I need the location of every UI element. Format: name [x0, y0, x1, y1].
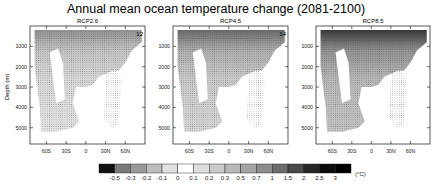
- panel-title: RCP2.6: [77, 18, 99, 24]
- colorbar-label: 0.5: [237, 175, 246, 181]
- y-tick-label: 3000: [15, 84, 27, 90]
- y-tick-label: 1000: [301, 43, 313, 49]
- x-tick-label: 0: [84, 148, 87, 154]
- x-tick-label: 0: [370, 148, 373, 154]
- panels: RCP2.61260S30S030N60N1000200030004000500…: [15, 18, 430, 154]
- colorbar-label: 0.2: [205, 175, 214, 181]
- colorbar-swatch: [131, 164, 147, 173]
- colorbar-label: 0.7: [252, 175, 261, 181]
- colorbar-swatch: [225, 164, 241, 173]
- colorbar-swatch: [320, 164, 336, 173]
- x-tick-label: 0: [227, 148, 230, 154]
- colorbar-label: 3: [334, 175, 338, 181]
- y-tick-label: 2000: [301, 64, 313, 70]
- y-tick-label: 5000: [301, 125, 313, 131]
- colorbar-label: -0.2: [141, 175, 152, 181]
- panel-field: [173, 26, 288, 144]
- colorbar-swatch: [209, 164, 225, 173]
- colorbar-label: 1: [271, 175, 275, 181]
- colorbar-label: 1.5: [284, 175, 293, 181]
- x-tick-label: 60S: [185, 148, 195, 154]
- colorbar-label: -0.5: [110, 175, 121, 181]
- y-tick-label: 2000: [15, 64, 27, 70]
- x-tick-label: 30N: [101, 148, 111, 154]
- y-axis-label: Depth (m): [4, 74, 10, 101]
- y-tick-label: 4000: [301, 104, 313, 110]
- x-tick-label: 60N: [264, 148, 274, 154]
- colorbar-swatch: [288, 164, 304, 173]
- y-tick-label: 1000: [15, 43, 27, 49]
- colorbar-label: -0.3: [125, 175, 136, 181]
- colorbar-swatch: [178, 164, 194, 173]
- colorbar-swatch: [257, 164, 273, 173]
- panel-rcp85: RCP8.560S30S030N60N10002000300040005000: [301, 18, 430, 154]
- x-tick-label: 30N: [386, 148, 396, 154]
- colorbar-swatch: [335, 164, 351, 173]
- x-tick-label: 60N: [406, 148, 416, 154]
- model-count-label: 12: [136, 31, 143, 37]
- x-tick-label: 30S: [205, 148, 215, 154]
- model-count-label: 14: [279, 31, 286, 37]
- y-tick-label: 1000: [158, 43, 170, 49]
- panel-rcp26: RCP2.61260S30S030N60N1000200030004000500…: [15, 18, 145, 154]
- colorbar-label: 2: [302, 175, 306, 181]
- colorbar-label: 2.5: [315, 175, 324, 181]
- y-tick-label: 4000: [15, 104, 27, 110]
- x-tick-label: 60S: [42, 148, 52, 154]
- colorbar-swatch: [272, 164, 288, 173]
- y-tick-label: 4000: [158, 104, 170, 110]
- y-tick-label: 3000: [158, 84, 170, 90]
- colorbar-swatch: [241, 164, 257, 173]
- colorbar-swatch: [115, 164, 131, 173]
- colorbar-swatch: [162, 164, 178, 173]
- colorbar-units: (°C): [355, 171, 366, 177]
- colorbar-swatch: [304, 164, 320, 173]
- colorbar-label: 0.3: [221, 175, 230, 181]
- panel-title: RCP4.5: [220, 18, 242, 24]
- x-tick-label: 60N: [121, 148, 131, 154]
- x-tick-label: 30S: [347, 148, 357, 154]
- chart-title: Annual mean ocean temperature change (20…: [67, 2, 365, 16]
- y-tick-label: 5000: [158, 125, 170, 131]
- colorbar-swatch: [194, 164, 210, 173]
- colorbar-label: -0.1: [157, 175, 168, 181]
- y-tick-label: 5000: [15, 125, 27, 131]
- y-tick-label: 2000: [158, 64, 170, 70]
- x-tick-label: 30S: [62, 148, 72, 154]
- colorbar-label: 0: [176, 175, 180, 181]
- x-tick-label: 60S: [328, 148, 338, 154]
- x-tick-label: 30N: [244, 148, 254, 154]
- colorbar: -0.5-0.3-0.2-0.100.10.20.30.50.711.522.5…: [99, 164, 351, 181]
- colorbar-label: 0.1: [189, 175, 198, 181]
- figure: Annual mean ocean temperature change (20…: [0, 0, 433, 186]
- panel-field: [30, 26, 145, 144]
- panel-rcp45: RCP4.51460S30S030N60N1000200030004000500…: [158, 18, 288, 154]
- panel-field: [316, 26, 430, 144]
- colorbar-swatch: [99, 164, 115, 173]
- panel-title: RCP8.5: [362, 18, 384, 24]
- y-tick-label: 3000: [301, 84, 313, 90]
- colorbar-swatch: [146, 164, 162, 173]
